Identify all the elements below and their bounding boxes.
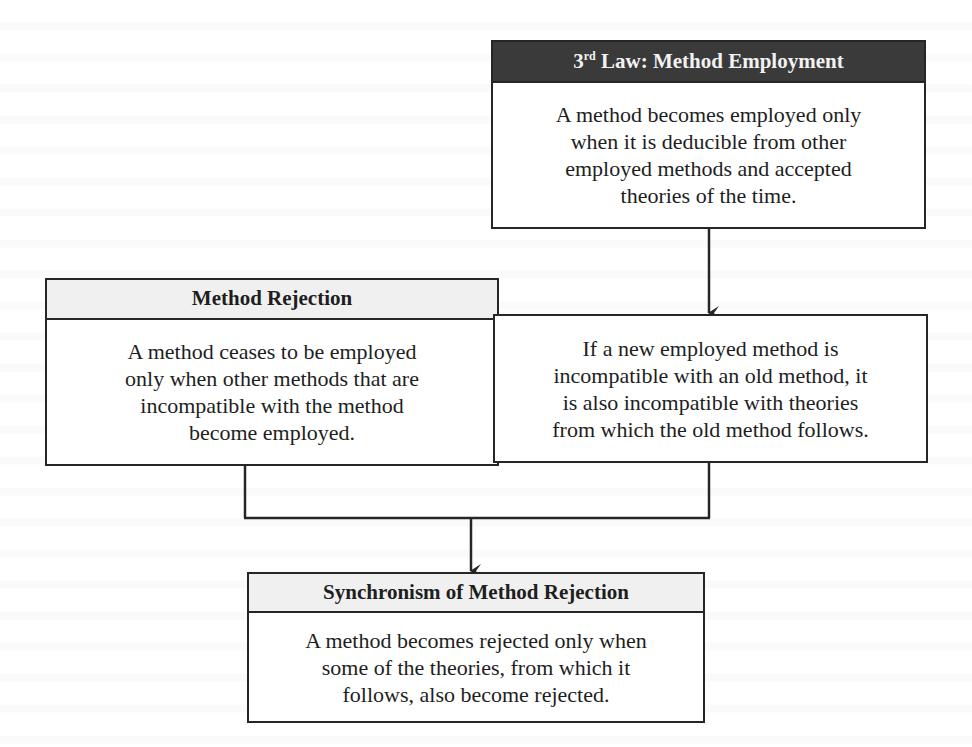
title-superscript: rd xyxy=(584,49,596,63)
node-body: A method becomes employed only when it i… xyxy=(493,83,924,227)
node-header: Method Rejection xyxy=(47,280,497,320)
body-line: employed methods and accepted xyxy=(556,155,862,182)
body-line: A method becomes employed only xyxy=(556,101,862,128)
body-line: when it is deducible from other xyxy=(556,128,862,155)
node-header: 3rd Law: Method Employment xyxy=(493,42,924,83)
body-line: is also incompatible with theories xyxy=(552,389,869,416)
body-line: If a new employed method is xyxy=(552,335,869,362)
node-body: A method becomes rejected only when some… xyxy=(249,613,703,721)
body-line: incompatible with an old method, it xyxy=(552,362,869,389)
node-title: Synchronism of Method Rejection xyxy=(323,580,629,604)
body-line: become employed. xyxy=(125,419,419,446)
node-body: If a new employed method is incompatible… xyxy=(495,316,926,461)
node-header: Synchronism of Method Rejection xyxy=(249,574,703,613)
body-line: only when other methods that are xyxy=(125,365,419,392)
node-third-law-method-employment: 3rd Law: Method Employment A method beco… xyxy=(491,40,926,229)
body-line: from which the old method follows. xyxy=(552,416,869,443)
title-rest: Law: Method Employment xyxy=(596,49,844,73)
body-line: theories of the time. xyxy=(556,182,862,209)
body-line: follows, also become rejected. xyxy=(305,681,647,708)
node-synchronism-of-method-rejection: Synchronism of Method Rejection A method… xyxy=(247,572,705,723)
body-line: A method ceases to be employed xyxy=(125,338,419,365)
node-method-rejection: Method Rejection A method ceases to be e… xyxy=(45,278,499,466)
node-incompatibility-consequence: If a new employed method is incompatible… xyxy=(493,314,928,463)
body-line: incompatible with the method xyxy=(125,392,419,419)
node-title: Method Rejection xyxy=(192,286,352,310)
body-line: A method becomes rejected only when xyxy=(305,627,647,654)
body-line: some of the theories, from which it xyxy=(305,654,647,681)
title-prefix: 3 xyxy=(573,49,584,73)
node-body: A method ceases to be employed only when… xyxy=(47,320,497,464)
